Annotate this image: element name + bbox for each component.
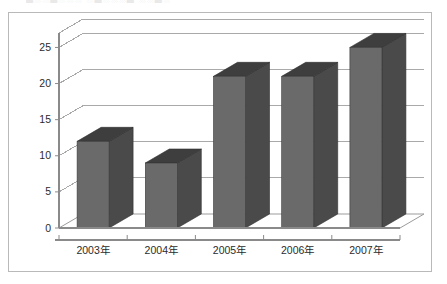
bar-front-face-2006年[interactable]	[282, 76, 314, 228]
y-tick-label-10: 10	[39, 149, 51, 161]
bar-2004年[interactable]	[145, 149, 201, 228]
bar-2003年[interactable]	[77, 127, 133, 228]
category-label-2005年: 2005年	[213, 244, 246, 256]
y-tick-label-20: 20	[39, 77, 51, 89]
bar-front-face-2004年[interactable]	[145, 163, 177, 228]
bar-side-face-2003年	[109, 127, 133, 228]
bar-2007年[interactable]	[350, 33, 406, 228]
y-tick-label-0: 0	[45, 222, 51, 234]
y-tick-label-15: 15	[39, 113, 51, 125]
bar-2005年[interactable]	[214, 62, 270, 228]
y-tick-label-25: 25	[39, 41, 51, 53]
bars	[77, 33, 406, 228]
category-label-2007年: 2007年	[349, 244, 382, 256]
bar-front-face-2005年[interactable]	[214, 76, 246, 228]
category-axis	[55, 235, 400, 240]
gridline-top	[59, 19, 424, 33]
bar-side-face-2006年	[314, 62, 338, 228]
bar-2006年[interactable]	[282, 62, 338, 228]
bar-side-face-2007年	[382, 33, 406, 228]
y-tick-label-5: 5	[45, 185, 51, 197]
bar-side-face-2005年	[246, 62, 270, 228]
category-label-2006年: 2006年	[281, 244, 314, 256]
bar-front-face-2003年[interactable]	[77, 141, 109, 228]
category-label-2004年: 2004年	[145, 244, 178, 256]
bar-chart-plot[interactable]: 05101520252003年2004年2005年2006年2007年	[0, 0, 447, 284]
bar-front-face-2007年[interactable]	[350, 47, 382, 228]
category-label-2003年: 2003年	[76, 244, 109, 256]
